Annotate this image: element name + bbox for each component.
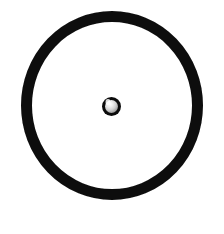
center-bead <box>102 97 121 116</box>
center-bead-highlight <box>106 99 111 105</box>
ring-figure-graphic <box>0 0 224 234</box>
figure-canvas <box>0 0 224 234</box>
